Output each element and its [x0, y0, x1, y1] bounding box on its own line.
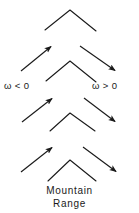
descending-arrow-group	[80, 46, 116, 172]
mountain-chevron-2	[46, 61, 96, 82]
mountain-chevron-group	[45, 10, 96, 181]
figure-caption: Mountain Range	[0, 184, 139, 210]
ascending-arrow-3	[21, 148, 52, 173]
descending-arrow-3	[83, 147, 116, 172]
mountain-range-figure: ω < 0 ω > 0 Mountain Range	[0, 0, 139, 213]
mountain-chevron-4	[48, 160, 96, 181]
ascending-arrow-2	[22, 99, 52, 123]
mountain-chevron-1	[45, 10, 96, 31]
caption-line-2: Range	[0, 197, 139, 210]
omega-negative-label: ω < 0	[4, 81, 30, 91]
mountain-range-diagram	[0, 0, 139, 213]
omega-positive-label: ω > 0	[92, 81, 118, 91]
descending-arrow-1	[80, 46, 115, 71]
mountain-chevron-3	[50, 113, 95, 131]
ascending-arrow-1	[21, 47, 51, 72]
ascending-arrow-group	[21, 47, 52, 173]
caption-line-1: Mountain	[0, 184, 139, 197]
descending-arrow-2	[84, 98, 115, 122]
